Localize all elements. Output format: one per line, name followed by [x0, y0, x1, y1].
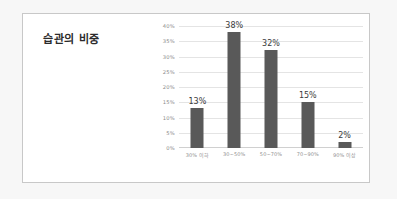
bar-slot: 13% [179, 26, 216, 148]
x-axis-tick-label: 30% 이하 [186, 151, 209, 158]
scanned-page-background: 습관의 비중 0%5%10%15%20%25%30%35%40% 13%38%3… [0, 0, 397, 199]
bar-value-label: 32% [262, 39, 280, 48]
bar-slot: 2% [326, 26, 363, 148]
x-axis-tick-label: 50~70% [260, 151, 282, 157]
bar[interactable] [301, 102, 314, 148]
y-axis-tick-label: 30% [163, 54, 175, 60]
y-axis-tick-label: 20% [163, 84, 175, 90]
bar-series: 13%38%32%15%2% [179, 26, 363, 148]
bar-value-label: 38% [225, 21, 243, 30]
bar-slot: 38% [216, 26, 253, 148]
chart-title: 습관의 비중 [43, 30, 100, 46]
bar-value-label: 15% [299, 91, 317, 100]
y-axis-tick-label: 10% [163, 115, 175, 121]
y-axis-tick-label: 25% [163, 69, 175, 75]
plot-region: 0%5%10%15%20%25%30%35%40% 13%38%32%15%2%… [151, 26, 363, 174]
x-axis-tick-label: 30~50% [223, 151, 245, 157]
y-axis-tick-label: 0% [166, 145, 175, 151]
y-axis-tick-labels: 0%5%10%15%20%25%30%35%40% [151, 26, 177, 148]
bar[interactable] [338, 142, 351, 148]
bar-value-label: 13% [189, 97, 207, 106]
x-axis-tick-label: 70~90% [297, 151, 319, 157]
bar[interactable] [264, 50, 277, 148]
bar[interactable] [191, 108, 204, 148]
bar-value-label: 2% [338, 131, 351, 140]
bar-slot: 32% [253, 26, 290, 148]
chart-frame: 습관의 비중 0%5%10%15%20%25%30%35%40% 13%38%3… [22, 13, 370, 183]
y-axis-tick-label: 35% [163, 38, 175, 44]
y-axis-tick-label: 5% [166, 130, 175, 136]
plot-area: 13%38%32%15%2% [179, 26, 363, 148]
bar[interactable] [228, 32, 241, 148]
y-axis-tick-label: 15% [163, 99, 175, 105]
x-axis-category-labels: 30% 이하30~50%50~70%70~90%90% 이상 [179, 151, 363, 167]
x-axis-tick-label: 90% 이상 [333, 151, 356, 158]
y-axis-tick-label: 40% [163, 23, 175, 29]
bar-slot: 15% [289, 26, 326, 148]
